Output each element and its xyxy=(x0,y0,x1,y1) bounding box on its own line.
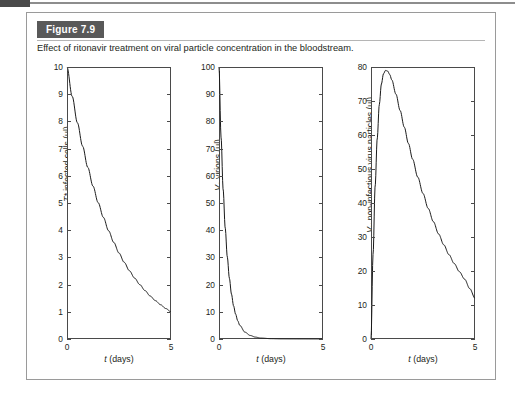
plot-area: 0102030405060708005 xyxy=(371,67,475,339)
y-tick xyxy=(319,285,323,286)
y-tick xyxy=(471,305,475,306)
y-tick xyxy=(67,176,71,177)
x-tick-label: 5 xyxy=(169,342,174,352)
x-axis-label: t (days) xyxy=(219,354,323,364)
curve-path xyxy=(67,67,171,312)
x-tick xyxy=(371,67,372,71)
y-tick-label: 90 xyxy=(206,90,215,98)
x-axis-label: t (days) xyxy=(371,354,475,364)
y-tick-label: 50 xyxy=(206,199,215,207)
y-tick xyxy=(371,237,375,238)
y-tick xyxy=(167,339,171,340)
y-tick xyxy=(219,230,223,231)
curve-t-infected-cells xyxy=(67,67,171,339)
x-axis-label: t (days) xyxy=(67,354,171,364)
figure-caption: Effect of ritonavir treatment on viral p… xyxy=(37,42,485,55)
y-tick xyxy=(167,203,171,204)
y-tick xyxy=(319,176,323,177)
y-tick xyxy=(471,135,475,136)
y-tick-label: 70 xyxy=(206,145,215,153)
y-tick-label: 50 xyxy=(358,165,367,173)
y-tick-label: 30 xyxy=(206,253,215,261)
curve-path xyxy=(371,70,475,339)
curve-path xyxy=(219,67,323,339)
y-tick-label: 10 xyxy=(206,308,215,316)
y-tick xyxy=(219,203,223,204)
figure-container: Figure 7.9 Effect of ritonavir treatment… xyxy=(26,12,496,380)
x-tick xyxy=(219,67,220,71)
figure-number-badge: Figure 7.9 xyxy=(37,21,104,38)
y-tick xyxy=(67,285,71,286)
y-tick xyxy=(67,312,71,313)
x-tick-label: 5 xyxy=(321,342,326,352)
y-tick xyxy=(219,149,223,150)
plot-area: 010203040506070809010005 xyxy=(219,67,323,339)
y-tick-label: 10 xyxy=(54,63,63,71)
y-tick xyxy=(371,101,375,102)
y-tick xyxy=(167,230,171,231)
x-tick xyxy=(67,67,68,71)
y-tick xyxy=(67,230,71,231)
y-tick xyxy=(319,149,323,150)
y-tick xyxy=(67,94,71,95)
curve-v1-virions xyxy=(219,67,323,339)
plot-area: 01234567891005 xyxy=(67,67,171,339)
x-tick-label: 0 xyxy=(65,342,70,352)
y-tick xyxy=(371,135,375,136)
y-tick xyxy=(67,149,71,150)
y-tick-label: 80 xyxy=(358,63,367,71)
y-tick-label: 10 xyxy=(358,301,367,309)
curve-vx-noninfectious xyxy=(371,67,475,339)
y-tick-label: 2 xyxy=(58,281,63,289)
y-tick xyxy=(167,285,171,286)
y-tick xyxy=(219,176,223,177)
page-top-rule xyxy=(30,2,515,4)
y-tick xyxy=(371,203,375,204)
chart-panel-vx-noninfectious: VX non-infectious virus particles (µl) 0… xyxy=(337,59,489,375)
y-tick xyxy=(371,339,375,340)
y-tick xyxy=(167,257,171,258)
y-tick xyxy=(371,169,375,170)
y-tick-label: 40 xyxy=(358,199,367,207)
x-tick xyxy=(322,67,323,71)
y-tick xyxy=(471,203,475,204)
y-tick xyxy=(319,203,323,204)
x-tick-label: 0 xyxy=(369,342,374,352)
y-tick xyxy=(219,339,223,340)
y-tick xyxy=(67,203,71,204)
y-tick xyxy=(471,101,475,102)
x-tick-label: 5 xyxy=(473,342,478,352)
y-tick xyxy=(219,312,223,313)
x-tick-label: 0 xyxy=(217,342,222,352)
y-tick xyxy=(167,176,171,177)
x-tick xyxy=(474,335,475,339)
y-tick-label: 0 xyxy=(210,335,215,343)
y-tick xyxy=(167,121,171,122)
y-tick xyxy=(471,169,475,170)
y-tick-label: 60 xyxy=(206,172,215,180)
y-tick xyxy=(319,257,323,258)
chart-panel-group: T* infected cells (µl) 01234567891005 t … xyxy=(33,59,491,375)
y-tick-label: 30 xyxy=(358,233,367,241)
y-tick xyxy=(219,285,223,286)
y-tick xyxy=(219,257,223,258)
y-tick xyxy=(319,121,323,122)
y-tick xyxy=(167,312,171,313)
badge-divider xyxy=(37,40,485,41)
y-tick xyxy=(319,339,323,340)
y-tick-label: 40 xyxy=(206,226,215,234)
y-tick-label: 8 xyxy=(58,117,63,125)
chart-panel-t-infected-cells: T* infected cells (µl) 01234567891005 t … xyxy=(33,59,185,375)
y-tick xyxy=(371,271,375,272)
scan-edge-artifact xyxy=(0,0,30,7)
y-tick xyxy=(471,237,475,238)
y-tick xyxy=(67,339,71,340)
y-tick-label: 5 xyxy=(58,199,63,207)
y-tick xyxy=(319,230,323,231)
y-tick-label: 3 xyxy=(58,253,63,261)
y-tick-label: 60 xyxy=(358,131,367,139)
y-tick-label: 70 xyxy=(358,97,367,105)
x-tick xyxy=(170,67,171,71)
y-tick-label: 80 xyxy=(206,117,215,125)
y-tick xyxy=(371,305,375,306)
